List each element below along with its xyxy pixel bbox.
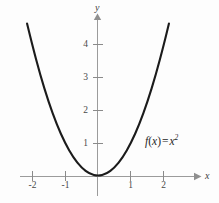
y-tick-label-2: 2 xyxy=(72,106,88,116)
x-axis-arrow-icon xyxy=(194,173,202,180)
plot-canvas xyxy=(0,0,219,203)
y-axis-arrow-icon xyxy=(94,14,101,21)
x-axis-label: x xyxy=(205,171,209,181)
equals-sign: = xyxy=(161,135,170,147)
y-tick-label-3: 3 xyxy=(72,73,88,83)
y-tick-label-1: 1 xyxy=(72,139,88,149)
x-tick-label-pos1: 1 xyxy=(122,181,140,191)
y-tick-label-4: 4 xyxy=(72,40,88,50)
expression-exponent: 2 xyxy=(175,133,179,142)
function-graph-figure: -2 -1 1 2 4 3 2 1 y x f(x)=x2 xyxy=(0,0,219,203)
y-axis-label: y xyxy=(95,3,99,13)
x-tick-label-pos2: 2 xyxy=(155,181,173,191)
x-tick-label-neg2: -2 xyxy=(24,181,42,191)
function-equation-label: f(x)=x2 xyxy=(145,136,178,148)
x-tick-label-neg1: -1 xyxy=(57,181,75,191)
